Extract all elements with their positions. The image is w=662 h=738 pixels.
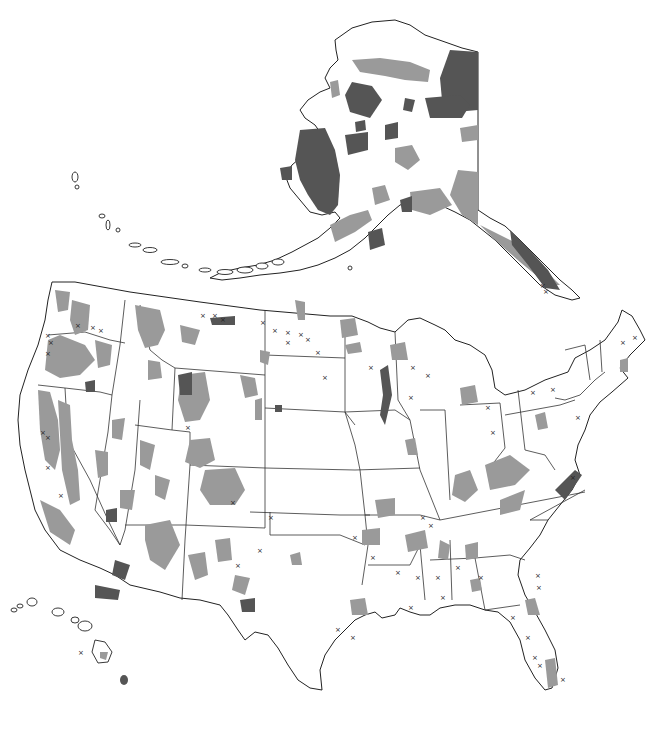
alaska-dark-area (425, 95, 470, 118)
svg-text:×: × (185, 424, 191, 432)
svg-text:×: × (58, 492, 64, 500)
svg-text:×: × (370, 554, 376, 562)
svg-text:×: × (530, 389, 536, 397)
svg-text:×: × (212, 312, 218, 320)
svg-text:×: × (45, 464, 51, 472)
svg-text:×: × (268, 514, 274, 522)
svg-text:×: × (298, 331, 304, 339)
svg-text:×: × (78, 649, 84, 657)
svg-text:×: × (285, 329, 291, 337)
hawaii (11, 598, 128, 685)
svg-text:×: × (408, 604, 414, 612)
svg-text:×: × (335, 626, 341, 634)
svg-text:×: × (485, 404, 491, 412)
svg-text:×: × (536, 584, 542, 592)
svg-text:×: × (490, 429, 496, 437)
svg-text:×: × (260, 319, 266, 327)
svg-text:×: × (440, 594, 446, 602)
svg-text:×: × (532, 654, 538, 662)
alaska-dark-area (355, 120, 366, 132)
alaska-dark-area (385, 122, 398, 140)
svg-text:×: × (75, 322, 81, 330)
svg-text:×: × (395, 569, 401, 577)
alaska-light-area (460, 125, 478, 142)
alaska: × × (72, 20, 580, 300)
svg-text:×: × (428, 522, 434, 530)
hawaii-dark-area (120, 675, 128, 685)
svg-text:×: × (543, 288, 549, 296)
svg-text:×: × (537, 662, 543, 670)
svg-text:×: × (415, 574, 421, 582)
svg-text:×: × (350, 634, 356, 642)
svg-text:×: × (368, 364, 374, 372)
svg-text:×: × (425, 372, 431, 380)
svg-text:×: × (322, 374, 328, 382)
svg-text:×: × (408, 394, 414, 402)
svg-text:×: × (45, 434, 51, 442)
svg-text:×: × (48, 339, 54, 347)
svg-text:×: × (272, 327, 278, 335)
svg-text:×: × (315, 349, 321, 357)
svg-text:×: × (410, 364, 416, 372)
svg-text:×: × (285, 339, 291, 347)
svg-text:×: × (235, 562, 241, 570)
svg-text:×: × (200, 312, 206, 320)
svg-text:×: × (535, 572, 541, 580)
svg-text:×: × (435, 574, 441, 582)
svg-text:×: × (98, 327, 104, 335)
svg-text:×: × (570, 474, 576, 482)
alaska-dark-area (368, 228, 385, 250)
svg-text:×: × (220, 316, 226, 324)
svg-text:×: × (257, 547, 263, 555)
svg-text:×: × (455, 564, 461, 572)
svg-text:×: × (90, 324, 96, 332)
alaska-dark-area (280, 166, 292, 180)
us-federal-lands-map: × × (0, 0, 662, 738)
svg-text:×: × (45, 350, 51, 358)
svg-text:×: × (560, 676, 566, 684)
svg-text:×: × (510, 614, 516, 622)
svg-text:×: × (550, 386, 556, 394)
svg-text:×: × (478, 574, 484, 582)
svg-text:×: × (352, 534, 358, 542)
svg-text:×: × (420, 514, 426, 522)
svg-text:×: × (620, 339, 626, 347)
svg-text:×: × (305, 336, 311, 344)
contiguous-us: ××× ××× ××× ××× ××× ×× ×× ×× ×× ×× ×× ××… (18, 282, 645, 690)
svg-text:×: × (632, 334, 638, 342)
us-outline (18, 282, 645, 690)
svg-text:×: × (575, 414, 581, 422)
svg-text:×: × (230, 499, 236, 507)
svg-text:×: × (525, 634, 531, 642)
